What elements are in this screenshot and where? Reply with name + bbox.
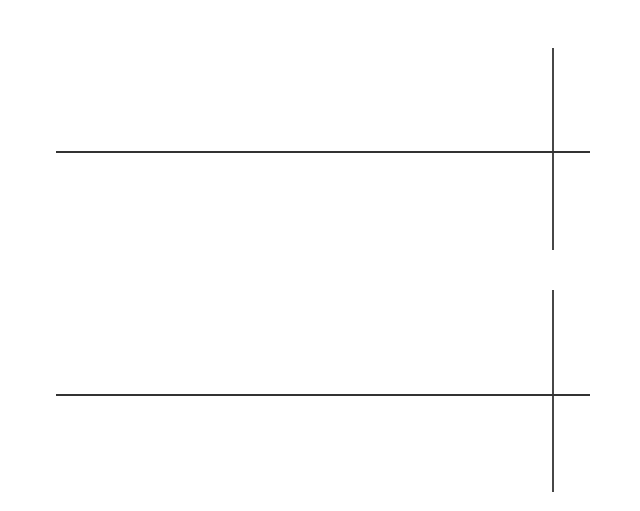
top-panel — [56, 48, 590, 250]
bottom-panel — [56, 290, 590, 492]
figure-canvas — [0, 0, 640, 511]
